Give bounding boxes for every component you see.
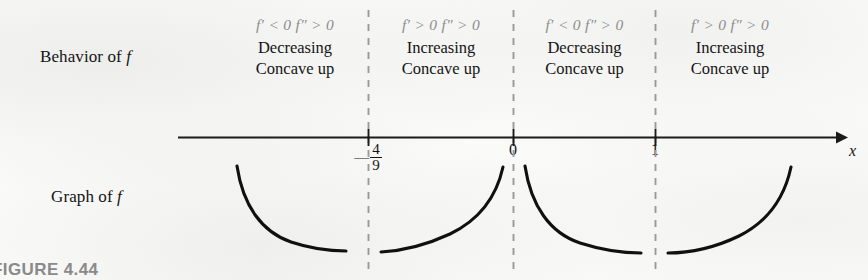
x-axis-label: x: [849, 142, 856, 160]
tick-minus-sign: —: [354, 149, 369, 166]
row-label-behavior-prefix: Behavior of: [40, 47, 126, 66]
tick-fraction: 4 9: [370, 142, 382, 174]
region-1-annotation: f′ < 0 f″ > 0 Decreasing Concave up: [222, 16, 368, 79]
region-3-annotation: f′ < 0 f″ > 0 Decreasing Concave up: [514, 16, 655, 79]
tick-label-zero: 0: [493, 141, 533, 159]
region-2-behavior: Increasing Concave up: [369, 37, 513, 79]
region-3-monotonicity: Decreasing: [514, 37, 655, 58]
region-3-derivative-signs: f′ < 0 f″ > 0: [514, 16, 655, 34]
row-label-graph-of-f: Graph of f: [51, 187, 122, 207]
region-4-behavior: Increasing Concave up: [657, 37, 803, 79]
figure-container: Behavior of f Graph of f f′ < 0 f″ > 0 D…: [0, 0, 868, 280]
x-axis-arrowhead: [836, 132, 848, 144]
region-4-concavity: Concave up: [657, 58, 803, 79]
region-4-derivative-signs: f′ > 0 f″ > 0: [657, 16, 803, 34]
row-label-graph-prefix: Graph of: [51, 187, 117, 206]
region-1-behavior: Decreasing Concave up: [222, 37, 368, 79]
tick-fraction-denominator: 9: [370, 158, 382, 173]
tick-fraction-numerator: 4: [370, 142, 382, 158]
region-3-behavior: Decreasing Concave up: [514, 37, 655, 79]
region-1-derivative-signs: f′ < 0 f″ > 0: [222, 16, 368, 34]
graph-curves: [237, 166, 791, 253]
tick-label-negative-four-ninths: — 4 9: [336, 142, 400, 174]
region-4-monotonicity: Increasing: [657, 37, 803, 58]
row-label-graph-function: f: [117, 187, 122, 206]
region-2-annotation: f′ > 0 f″ > 0 Increasing Concave up: [369, 16, 513, 79]
region-1-monotonicity: Decreasing: [222, 37, 368, 58]
region-2-derivative-signs: f′ > 0 f″ > 0: [369, 16, 513, 34]
tick-label-one: 1: [635, 141, 675, 159]
curve-branch-1-decreasing-concave-up: [237, 166, 346, 251]
curve-branch-2-increasing-concave-up: [381, 167, 503, 252]
region-3-concavity: Concave up: [514, 58, 655, 79]
region-1-concavity: Concave up: [222, 58, 368, 79]
region-2-monotonicity: Increasing: [369, 37, 513, 58]
region-4-annotation: f′ > 0 f″ > 0 Increasing Concave up: [657, 16, 803, 79]
row-label-behavior-function: f: [126, 47, 131, 66]
figure-caption: FIGURE 4.44: [0, 260, 98, 280]
region-2-concavity: Concave up: [369, 58, 513, 79]
curve-branch-4-increasing-concave-up: [668, 167, 791, 253]
row-label-behavior-of-f: Behavior of f: [40, 47, 131, 67]
curve-branch-3-decreasing-concave-up: [525, 166, 641, 253]
